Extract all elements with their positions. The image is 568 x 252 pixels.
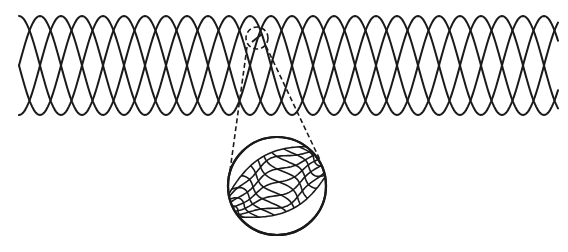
magnified-wire [217,212,231,217]
magnified-detail-view [217,137,341,235]
mesh-wire [19,16,558,115]
mesh-wire [19,16,558,115]
braided-stent-diagram [0,0,568,252]
magnified-wire [327,148,341,153]
mesh-wire [19,16,558,115]
braided-mesh [19,16,558,115]
figure-canvas [0,0,568,252]
mesh-wire [19,16,558,115]
